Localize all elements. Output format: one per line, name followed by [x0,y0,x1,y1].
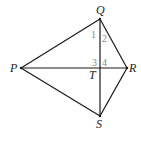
segment-rs [100,68,127,116]
label-r: R [128,61,137,75]
kite-diagram: Q P R S T 1 2 3 4 [0,0,141,141]
label-p: P [9,61,18,75]
angle-label-3: 3 [92,57,97,68]
angle-label-1: 1 [91,29,96,40]
angle-label-2: 2 [102,33,107,44]
label-t: T [89,68,97,82]
label-q: Q [96,3,105,17]
label-s: S [96,117,102,131]
point-p-dot [20,67,22,69]
point-r-dot [126,67,128,69]
segment-pq [21,19,100,68]
point-q-dot [99,18,101,20]
angle-label-4: 4 [102,57,107,68]
